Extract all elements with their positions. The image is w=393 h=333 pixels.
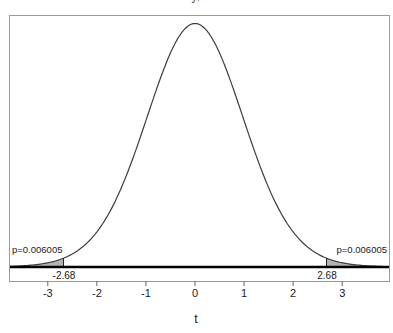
plot-box — [10, 16, 390, 282]
x-axis-tick-label: -1 — [141, 288, 151, 299]
left-critical-value-label: -2.68 — [53, 271, 76, 281]
right-tail-shaded-region — [327, 258, 389, 267]
x-axis-tick-label: -2 — [92, 288, 102, 299]
x-axis-tick-label: 3 — [339, 288, 345, 299]
right-tail-p-value-label: p=0.006005 — [337, 245, 387, 255]
t-distribution-figure: t density, df = 29 p=0.006005 p=0.006005… — [0, 0, 393, 333]
left-tail-p-value-label: p=0.006005 — [12, 245, 62, 255]
density-curve — [9, 24, 389, 267]
x-axis-title: t — [194, 313, 197, 326]
x-axis-tick-label: 0 — [192, 288, 198, 299]
right-critical-value-label: 2.68 — [317, 271, 336, 281]
plot-canvas — [0, 0, 393, 333]
x-axis-tick-label: 2 — [290, 288, 296, 299]
x-axis-tick-label: 1 — [241, 288, 247, 299]
x-axis-tick-label: -3 — [43, 288, 53, 299]
